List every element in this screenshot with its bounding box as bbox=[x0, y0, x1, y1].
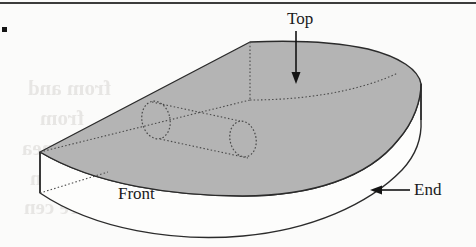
label-end: End bbox=[414, 180, 441, 200]
solid-block-figure bbox=[0, 0, 476, 247]
label-front: Front bbox=[118, 184, 155, 204]
label-top: Top bbox=[287, 9, 313, 29]
